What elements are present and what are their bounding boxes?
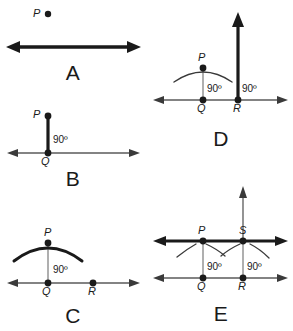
point-q-label: Q — [42, 286, 51, 297]
point-p-label: P — [198, 225, 205, 236]
point-q-label: Q — [197, 281, 206, 292]
point-s-dot — [240, 238, 247, 245]
point-p-dot — [45, 11, 51, 17]
arc-tail-left — [177, 244, 196, 257]
arc-cross-b — [221, 244, 240, 256]
point-r-label: R — [88, 286, 96, 297]
panel-e: P S Q R 90º 90º E — [147, 165, 293, 331]
angle-label-r: 90º — [242, 84, 257, 94]
panel-d-letter: D — [210, 128, 232, 149]
point-p-dot — [45, 113, 52, 120]
point-p-dot — [200, 65, 207, 72]
panel-c-letter: C — [62, 305, 84, 326]
arc-tail-right — [250, 244, 269, 258]
panel-a: P A — [0, 0, 147, 90]
panel-c: P Q R 90º C — [0, 185, 147, 331]
thick-line-through-p-s — [153, 236, 288, 246]
panel-d: P Q R 90º 90º D — [147, 0, 293, 165]
point-r-label: R — [238, 281, 246, 292]
point-r-label: R — [233, 103, 241, 114]
point-p-dot — [45, 240, 52, 247]
horizontal-line-with-arrows — [7, 149, 140, 157]
point-p-dot — [200, 238, 207, 245]
lower-horizontal-line-with-arrows — [153, 274, 288, 282]
point-p-label: P — [33, 109, 40, 120]
point-q-label: Q — [197, 103, 206, 114]
thick-line-with-arrows — [6, 41, 141, 53]
panel-e-letter: E — [210, 303, 232, 324]
point-s-label: S — [239, 225, 246, 236]
point-p-label: P — [44, 227, 51, 238]
angle-label-r: 90º — [247, 262, 262, 272]
point-p-label: P — [33, 8, 40, 19]
angle-label-q: 90º — [207, 84, 222, 94]
panel-b-letter: B — [62, 168, 84, 189]
angle-label-q: 90º — [53, 265, 68, 275]
point-q-label: Q — [41, 156, 50, 167]
horizontal-line-with-arrows — [7, 279, 140, 287]
horizontal-line-with-arrows — [153, 96, 288, 104]
angle-label-q: 90º — [207, 262, 222, 272]
point-p-label: P — [198, 52, 205, 63]
panel-a-letter: A — [62, 62, 84, 83]
angle-label-q: 90º — [53, 135, 68, 145]
